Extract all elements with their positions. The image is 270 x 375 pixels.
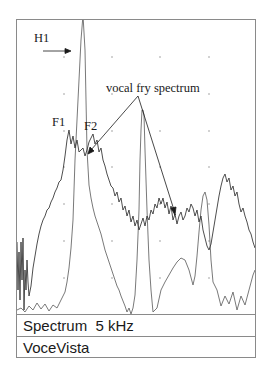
h1-label: H1 bbox=[34, 32, 49, 45]
annotation-arrows bbox=[43, 49, 176, 216]
f2-label: F2 bbox=[84, 120, 97, 133]
spectrum-range-label: Spectrum 5 kHz bbox=[17, 314, 255, 336]
spectrum-plot: H1 F1 F2 vocal fry spectrum bbox=[17, 20, 255, 314]
harmonic-spectrum-curve bbox=[17, 20, 255, 314]
software-name-label: VoceVista bbox=[17, 336, 255, 357]
h1-arrowhead-icon bbox=[65, 49, 71, 54]
f1-label: F1 bbox=[52, 116, 65, 129]
vocal-fry-label: vocal fry spectrum bbox=[106, 82, 200, 95]
spectrum-window: H1 F1 F2 vocal fry spectrum Spectrum 5 k… bbox=[16, 19, 256, 358]
